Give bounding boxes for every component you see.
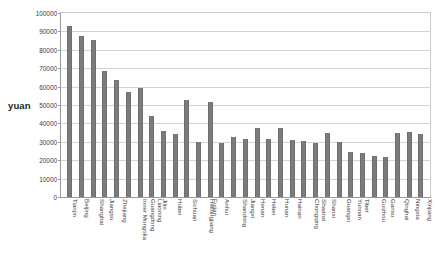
bar[interactable] xyxy=(79,36,84,197)
bar-slot xyxy=(380,13,392,197)
bar[interactable] xyxy=(313,143,318,197)
x-label-slot: Beijing xyxy=(75,199,87,261)
bar-slot xyxy=(368,13,380,197)
bar[interactable] xyxy=(67,26,72,197)
y-tick-label: 30000 xyxy=(39,138,57,145)
x-label-slot: Hainan xyxy=(287,199,299,261)
bar-slot xyxy=(310,13,322,197)
bar-slot xyxy=(286,13,298,197)
x-label-slot: Inner Mongolia xyxy=(122,199,134,261)
bar-slot xyxy=(345,13,357,197)
x-label-slot: Shanghai xyxy=(87,199,99,261)
bar[interactable] xyxy=(360,153,365,197)
x-label-slot: Qinghai xyxy=(393,199,405,261)
x-tick-label: Jilin xyxy=(162,199,168,210)
bar[interactable] xyxy=(243,139,248,197)
bar[interactable] xyxy=(290,140,295,197)
bar[interactable] xyxy=(348,152,353,197)
x-label-slot: Tibet xyxy=(358,199,370,261)
y-tick-label: 90000 xyxy=(39,28,57,35)
bars-container xyxy=(61,13,430,197)
bar-slot xyxy=(275,13,287,197)
x-label-slot: Sichuan xyxy=(181,199,193,261)
bar-slot xyxy=(228,13,240,197)
bar-slot xyxy=(169,13,181,197)
x-label-slot: Shandong xyxy=(228,199,240,261)
bar-slot xyxy=(321,13,333,197)
bar[interactable] xyxy=(418,134,423,197)
bar-slot xyxy=(216,13,228,197)
bar[interactable] xyxy=(126,92,131,197)
bar[interactable] xyxy=(372,156,377,197)
x-label-slot: Tianjin xyxy=(63,199,75,261)
bar[interactable] xyxy=(266,139,271,197)
x-label-slot: Ningxia xyxy=(405,199,417,261)
bar-slot xyxy=(64,13,76,197)
bar[interactable] xyxy=(231,137,236,197)
bar-slot xyxy=(240,13,252,197)
x-label-slot: Yunnan xyxy=(346,199,358,261)
bar-slot xyxy=(99,13,111,197)
x-label-slot: Hebei xyxy=(263,199,275,261)
x-label-slot: Gansu xyxy=(381,199,393,261)
bar[interactable] xyxy=(255,128,260,197)
x-tick-label: Xinjiang xyxy=(427,199,433,221)
bar[interactable] xyxy=(91,40,96,197)
bar[interactable] xyxy=(337,142,342,197)
x-label-slot: Guangdong xyxy=(134,199,146,261)
x-label-slot: Heilongjiang xyxy=(193,199,205,261)
x-axis-labels: TianjinBeijingShanghaiJiangsuZhejiangInn… xyxy=(60,199,431,261)
x-label-slot: Jiangsu xyxy=(98,199,110,261)
bar[interactable] xyxy=(184,100,189,197)
bar-slot xyxy=(392,13,404,197)
x-label-slot: Shaanxi xyxy=(310,199,322,261)
bar[interactable] xyxy=(173,134,178,197)
bar[interactable] xyxy=(149,116,154,197)
bar-slot xyxy=(251,13,263,197)
bar-slot xyxy=(76,13,88,197)
x-label-slot: Henan xyxy=(252,199,264,261)
bar-slot xyxy=(158,13,170,197)
bar-slot xyxy=(146,13,158,197)
x-label-slot: Chongqing xyxy=(299,199,311,261)
bar-slot xyxy=(181,13,193,197)
bar[interactable] xyxy=(278,128,283,197)
bar-slot xyxy=(415,13,427,197)
y-axis-title: yuan xyxy=(8,100,31,111)
bar[interactable] xyxy=(196,142,201,197)
bar[interactable] xyxy=(219,143,224,197)
bar-slot xyxy=(123,13,135,197)
x-label-slot: Zhejiang xyxy=(110,199,122,261)
x-label-slot: Guizhou xyxy=(369,199,381,261)
bar[interactable] xyxy=(395,133,400,197)
bar[interactable] xyxy=(383,157,388,197)
y-tick-label: 70000 xyxy=(39,65,57,72)
bar[interactable] xyxy=(301,141,306,197)
bar-slot xyxy=(111,13,123,197)
bar-slot xyxy=(403,13,415,197)
x-label-slot: Hunan xyxy=(275,199,287,261)
x-label-slot: Jiangxi xyxy=(240,199,252,261)
bar[interactable] xyxy=(138,88,143,197)
bar[interactable] xyxy=(161,131,166,197)
bar[interactable] xyxy=(114,80,119,197)
y-tick-mark xyxy=(58,197,61,198)
bar[interactable] xyxy=(102,71,107,197)
y-tick-label: 60000 xyxy=(39,83,57,90)
bar-slot xyxy=(204,13,216,197)
y-tick-label: 0 xyxy=(53,194,57,201)
bar[interactable] xyxy=(325,133,330,197)
x-label-slot: Anhui xyxy=(216,199,228,261)
bar-slot xyxy=(333,13,345,197)
x-label-slot: Jilin xyxy=(157,199,169,261)
x-label-slot: Liaoning xyxy=(145,199,157,261)
y-tick-label: 10000 xyxy=(39,175,57,182)
bar[interactable] xyxy=(407,132,412,197)
y-tick-label: 100000 xyxy=(36,10,57,17)
bar-slot xyxy=(357,13,369,197)
x-label-slot: Hubei xyxy=(169,199,181,261)
bar-slot xyxy=(263,13,275,197)
bar-slot xyxy=(193,13,205,197)
bar-slot xyxy=(298,13,310,197)
bar[interactable] xyxy=(208,102,213,197)
